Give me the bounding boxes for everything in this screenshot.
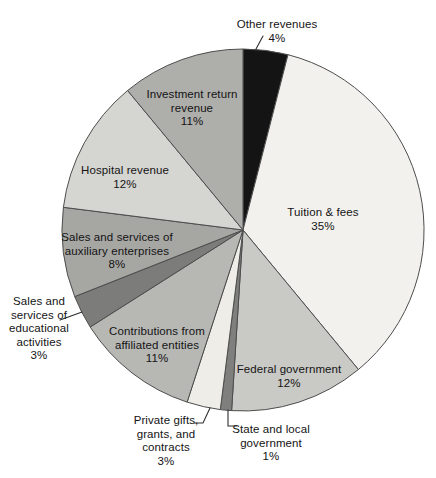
slice-label-auxiliary: Sales and services ofauxiliary enterpris…: [61, 231, 172, 272]
slice-label-line: Hospital revenue: [81, 164, 169, 178]
slice-label-state: State and localgovernment1%: [232, 423, 310, 464]
slice-label-line: auxiliary enterprises: [61, 244, 172, 258]
slice-percent-label: 35%: [287, 219, 358, 233]
slice-label-line: Sales and services of: [61, 231, 172, 245]
slice-percent-label: 1%: [232, 450, 310, 464]
slice-label-line: contracts: [134, 441, 199, 455]
slice-label-line: Private gifts,: [134, 414, 199, 428]
slice-label-federal: Federal government12%: [237, 363, 342, 390]
slice-label-line: Investment return: [146, 88, 237, 102]
slice-label-line: Other revenues: [237, 18, 318, 32]
slice-label-investment: Investment returnrevenue11%: [146, 88, 237, 129]
slice-percent-label: 11%: [146, 115, 237, 129]
pie-chart-figure: Other revenues4%Tuition & fees35%Federal…: [0, 0, 436, 478]
slice-label-line: educational: [9, 322, 69, 336]
slice-label-line: Sales and: [9, 295, 69, 309]
slice-label-line: revenue: [146, 101, 237, 115]
slice-label-educational: Sales andservices ofeducationalactivitie…: [9, 295, 69, 363]
slice-label-other: Other revenues4%: [237, 18, 318, 45]
slice-label-line: services of: [9, 309, 69, 323]
slice-percent-label: 3%: [9, 349, 69, 363]
slice-label-private: Private gifts,grants, andcontracts3%: [134, 414, 199, 468]
slice-label-line: Tuition & fees: [287, 206, 358, 220]
slice-label-hospital: Hospital revenue12%: [81, 164, 169, 191]
slice-label-line: Contributions from: [109, 325, 205, 339]
slice-percent-label: 3%: [134, 455, 199, 469]
slice-label-line: government: [232, 436, 310, 450]
slice-label-line: Federal government: [237, 363, 342, 377]
slice-label-tuition: Tuition & fees35%: [287, 206, 358, 233]
slice-label-contributions: Contributions fromaffiliated entities11%: [109, 325, 205, 366]
slice-label-line: activities: [9, 336, 69, 350]
slice-label-line: affiliated entities: [109, 338, 205, 352]
slice-label-line: State and local: [232, 423, 310, 437]
slice-percent-label: 4%: [237, 31, 318, 45]
slice-label-line: grants, and: [134, 428, 199, 442]
slice-percent-label: 8%: [61, 258, 172, 272]
slice-percent-label: 11%: [109, 352, 205, 366]
slice-percent-label: 12%: [81, 177, 169, 191]
slice-percent-label: 12%: [237, 376, 342, 390]
